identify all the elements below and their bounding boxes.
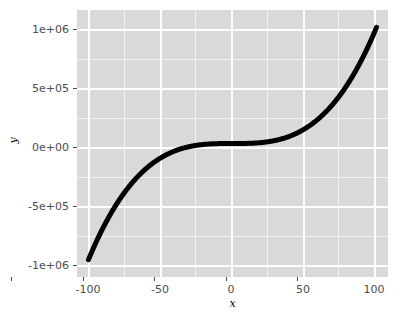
x-tick-label: 0 — [201, 283, 261, 296]
y-tick-label: -1e+06 — [4, 259, 69, 272]
y-tick-mark — [73, 206, 77, 207]
x-tick-label: 50 — [273, 283, 333, 296]
x-tick-mark — [154, 277, 155, 281]
x-tick-mark — [226, 277, 227, 281]
data-series-curve — [77, 10, 388, 277]
y-tick-mark — [73, 29, 77, 30]
x-tick-mark — [297, 277, 298, 281]
y-tick-mark — [73, 147, 77, 148]
y-tick-mark — [73, 88, 77, 89]
y-tick-label: -5e+05 — [4, 200, 69, 213]
x-tick-mark — [83, 277, 84, 281]
chart-container: -100 -50 0 50 100 -1e+06 -5e+05 0e+00 5e… — [0, 0, 406, 326]
y-tick-mark — [73, 265, 77, 266]
plot-panel — [77, 10, 388, 277]
y-tick-label: 1e+06 — [4, 23, 69, 36]
x-tick-label: -50 — [130, 283, 190, 296]
x-axis-title: x — [77, 297, 388, 310]
y-axis-title: y — [7, 111, 20, 171]
y-tick-label: 5e+05 — [4, 82, 69, 95]
x-tick-label: 100 — [344, 283, 404, 296]
